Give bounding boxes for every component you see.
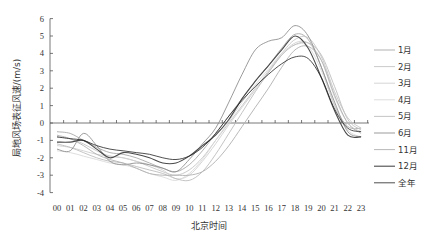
legend: 1月2月3月4月5月6月11月12月全年 — [374, 45, 418, 188]
legend-label: 全年 — [398, 178, 416, 188]
x-tick-label: 08 — [159, 203, 168, 213]
y-tick-label: 4 — [40, 48, 45, 58]
y-tick-label: 1 — [40, 101, 44, 111]
series-line-全年 — [57, 56, 361, 159]
legend-label: 1月 — [398, 45, 412, 55]
x-tick-label: 13 — [225, 203, 234, 213]
x-tick-label: 21 — [330, 203, 339, 213]
y-axis-title: 局地风场表征风速/(m/s) — [11, 59, 22, 158]
y-tick-label: 6 — [40, 14, 44, 24]
x-tick-label: 11 — [198, 203, 206, 213]
x-tick-label: 23 — [357, 203, 366, 213]
x-tick-label: 22 — [344, 203, 353, 213]
x-tick-label: 17 — [277, 203, 286, 213]
legend-label: 5月 — [398, 111, 412, 121]
x-tick-label: 19 — [304, 203, 313, 213]
legend-label: 2月 — [398, 62, 412, 72]
x-tick-label: 09 — [172, 203, 181, 213]
y-axis: 6543210-1-2-3-4 — [37, 14, 53, 198]
legend-label: 3月 — [398, 78, 412, 88]
y-tick-label: 0 — [40, 118, 44, 128]
x-tick-label: 06 — [132, 203, 141, 213]
x-tick-label: 02 — [79, 203, 88, 213]
legend-label: 11月 — [398, 145, 418, 155]
x-tick-label: 12 — [211, 203, 220, 213]
y-tick-label: -2 — [37, 153, 44, 163]
x-tick-label: 00 — [53, 203, 62, 213]
x-tick-label: 01 — [66, 203, 75, 213]
x-tick-label: 05 — [119, 203, 128, 213]
legend-label: 12月 — [398, 161, 418, 171]
y-tick-label: -1 — [37, 135, 44, 145]
x-tick-label: 04 — [106, 203, 115, 213]
series-line-3月 — [57, 41, 361, 179]
x-tick-label: 15 — [251, 203, 260, 213]
y-tick-label: -3 — [37, 170, 44, 180]
x-tick-label: 16 — [264, 203, 273, 213]
series-line-12月 — [57, 36, 361, 164]
x-tick-label: 18 — [291, 203, 300, 213]
x-tick-label: 14 — [238, 203, 247, 213]
legend-label: 4月 — [398, 95, 412, 105]
y-tick-label: -4 — [37, 188, 45, 198]
series-line-11月 — [57, 46, 361, 176]
x-tick-label: 03 — [92, 203, 101, 213]
series-lines — [57, 26, 361, 181]
line-chart: 6543210-1-2-3-4 000102030405060708091011… — [0, 0, 433, 236]
x-tick-label: 07 — [145, 203, 154, 213]
series-line-1月 — [57, 34, 361, 172]
x-axis-title: 北京时间 — [191, 220, 227, 231]
legend-label: 6月 — [398, 128, 412, 138]
x-tick-label: 10 — [185, 203, 194, 213]
y-tick-label: 2 — [40, 83, 44, 93]
y-tick-label: 3 — [40, 66, 44, 76]
y-tick-label: 5 — [40, 31, 44, 41]
x-tick-label: 20 — [317, 203, 326, 213]
